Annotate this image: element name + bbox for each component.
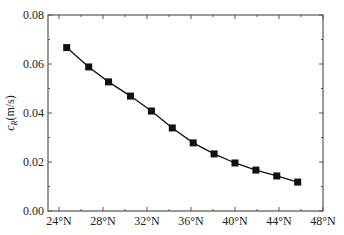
data-point-marker bbox=[211, 150, 218, 157]
data-point-marker bbox=[273, 172, 280, 179]
x-tick-label: 32°N bbox=[134, 214, 160, 228]
y-tick-label: 0.00 bbox=[23, 204, 44, 218]
y-axis-label: cR(m/s) bbox=[3, 95, 19, 131]
x-tick-label: 44°N bbox=[266, 214, 292, 228]
data-point-marker bbox=[190, 139, 197, 146]
y-tick-label: 0.08 bbox=[23, 8, 44, 22]
data-point-marker bbox=[85, 63, 92, 70]
data-point-marker bbox=[169, 124, 176, 131]
y-tick-label: 0.06 bbox=[23, 57, 44, 71]
line-chart: 24°N28°N32°N36°N40°N44°N48°N0.000.020.04… bbox=[0, 0, 344, 235]
x-tick-label: 24°N bbox=[46, 214, 72, 228]
data-series bbox=[63, 44, 301, 186]
data-point-marker bbox=[63, 44, 70, 51]
data-point-marker bbox=[148, 108, 155, 115]
series-line bbox=[67, 48, 298, 183]
y-tick-label: 0.02 bbox=[23, 155, 44, 169]
axes: 24°N28°N32°N36°N40°N44°N48°N0.000.020.04… bbox=[3, 8, 336, 228]
x-tick-label: 36°N bbox=[178, 214, 204, 228]
x-tick-label: 28°N bbox=[90, 214, 116, 228]
data-point-marker bbox=[127, 93, 134, 100]
x-tick-label: 40°N bbox=[222, 214, 248, 228]
data-point-marker bbox=[294, 179, 301, 186]
x-tick-label: 48°N bbox=[310, 214, 336, 228]
data-point-marker bbox=[105, 78, 112, 85]
data-point-marker bbox=[232, 159, 239, 166]
y-tick-label: 0.04 bbox=[23, 106, 44, 120]
data-point-marker bbox=[252, 167, 259, 174]
plot-frame bbox=[48, 15, 323, 211]
